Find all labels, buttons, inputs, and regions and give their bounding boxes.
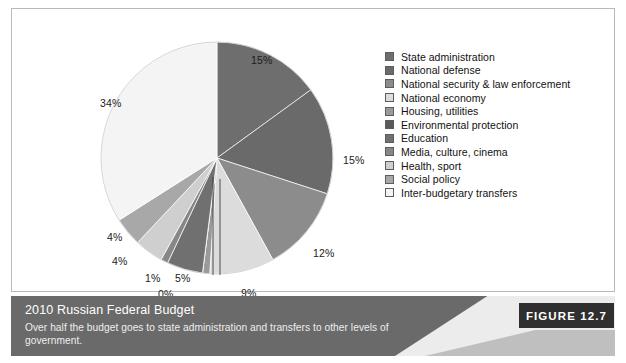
legend-item[interactable]: Media, culture, cinema — [385, 145, 615, 159]
legend-item-label: National security & law enforcement — [401, 78, 570, 90]
legend-swatch-icon — [385, 161, 394, 170]
legend-item[interactable]: Health, sport — [385, 159, 615, 173]
caption-title: 2010 Russian Federal Budget — [25, 303, 445, 317]
pie-slice-label: 4% — [112, 255, 127, 267]
figure-number-badge: FIGURE 12.7 — [519, 303, 614, 328]
pie-slice-label: 1% — [145, 272, 160, 284]
legend-swatch-icon — [385, 188, 394, 197]
legend-item-label: Education — [401, 132, 448, 144]
legend-item[interactable]: National defense — [385, 64, 615, 78]
legend-swatch-icon — [385, 120, 394, 129]
caption-subtitle: Over half the budget goes to state admin… — [25, 321, 445, 347]
legend-item[interactable]: Education — [385, 132, 615, 146]
pie-slice-label: 34% — [100, 97, 121, 109]
figure-container: 15%15%12%9%1%0%5%1%4%4%34% State adminis… — [0, 0, 626, 363]
legend-swatch-icon — [385, 134, 394, 143]
pie-chart-svg — [100, 41, 334, 275]
legend-swatch-icon — [385, 107, 394, 116]
legend-item-label: Inter-budgetary transfers — [401, 187, 517, 199]
pie-slice-label: 12% — [313, 247, 334, 259]
pie-slice-label: 15% — [251, 54, 272, 66]
caption-text-block: 2010 Russian Federal Budget Over half th… — [25, 303, 445, 347]
legend-item-label: National economy — [401, 92, 486, 104]
legend-item[interactable]: National security & law enforcement — [385, 77, 615, 91]
legend-item-label: State administration — [401, 51, 495, 63]
legend-swatch-icon — [385, 147, 394, 156]
legend-item[interactable]: Social policy — [385, 172, 615, 186]
legend-item-label: Social policy — [401, 173, 460, 185]
pie-slice-label: 5% — [175, 272, 190, 284]
chart-legend: State administrationNational defenseNati… — [385, 50, 615, 200]
chart-panel: 15%15%12%9%1%0%5%1%4%4%34% State adminis… — [11, 8, 615, 292]
legend-swatch-icon — [385, 66, 394, 75]
legend-swatch-icon — [385, 175, 394, 184]
legend-item[interactable]: State administration — [385, 50, 615, 64]
legend-item-label: Health, sport — [401, 160, 461, 172]
legend-swatch-icon — [385, 52, 394, 61]
legend-swatch-icon — [385, 93, 394, 102]
pie-slice-label: 4% — [107, 231, 122, 243]
legend-item[interactable]: National economy — [385, 91, 615, 105]
legend-item[interactable]: Inter-budgetary transfers — [385, 186, 615, 200]
legend-item-label: Environmental protection — [401, 119, 518, 131]
pie-slice-group — [101, 42, 333, 274]
legend-item-label: Media, culture, cinema — [401, 146, 508, 158]
pie-slice-label: 15% — [343, 154, 364, 166]
legend-item-label: National defense — [401, 64, 481, 76]
figure-number-label: FIGURE 12.7 — [526, 310, 607, 322]
legend-swatch-icon — [385, 79, 394, 88]
legend-item[interactable]: Housing, utilities — [385, 104, 615, 118]
pie-chart: 15%15%12%9%1%0%5%1%4%4%34% — [100, 41, 334, 275]
legend-item-label: Housing, utilities — [401, 105, 478, 117]
legend-item[interactable]: Environmental protection — [385, 118, 615, 132]
